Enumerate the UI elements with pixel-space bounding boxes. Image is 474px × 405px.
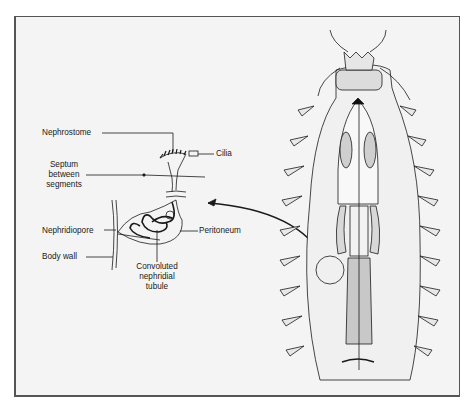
diagram-drawing <box>0 0 474 405</box>
label-peritoneum: Peritoneum <box>199 226 241 236</box>
worm-illustration <box>280 30 440 380</box>
label-convoluted-tubule: Convoluted nephridial tubule <box>128 262 186 292</box>
label-septum: Septum between segments <box>40 160 88 190</box>
label-cilia: Cilia <box>216 149 232 159</box>
label-nephridiopore: Nephridiopore <box>42 226 93 236</box>
label-nephrostome: Nephrostome <box>42 128 91 138</box>
leader-nephrostome <box>102 133 173 152</box>
label-body-wall: Body wall <box>42 252 77 262</box>
